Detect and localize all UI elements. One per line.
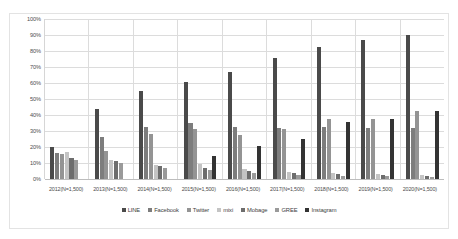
bar — [273, 58, 277, 179]
legend-label: Mobage — [247, 207, 267, 213]
chart-container: 0%10%20%30%40%50%60%70%80%90%100% 2012(N… — [9, 13, 449, 229]
y-axis-tick: 80% — [11, 48, 41, 54]
bar — [74, 160, 78, 179]
gridline — [45, 179, 444, 180]
bar — [60, 154, 64, 179]
y-axis-tick: 70% — [11, 64, 41, 70]
legend-item[interactable]: Instagram — [305, 207, 336, 213]
bar — [287, 172, 291, 179]
y-axis-tick: 100% — [11, 16, 41, 22]
chart-legend: LINEFacebookTwittermixiMobageGREEInstagr… — [10, 204, 448, 216]
legend-item[interactable]: GREE — [275, 207, 297, 213]
bar — [296, 175, 300, 179]
bar — [247, 171, 251, 179]
bar — [331, 173, 335, 179]
bar — [95, 109, 99, 179]
bar — [327, 119, 331, 179]
bar — [65, 152, 69, 179]
legend-swatch-icon — [305, 208, 309, 212]
bar — [242, 169, 246, 179]
bar — [55, 153, 59, 179]
plot-area — [44, 19, 444, 179]
bar-group — [223, 19, 267, 179]
legend-label: LINE — [128, 207, 141, 213]
bar — [435, 111, 439, 179]
bar-group — [45, 19, 89, 179]
bar — [198, 164, 202, 179]
bar — [430, 177, 434, 179]
bar — [381, 175, 385, 179]
y-axis-tick: 90% — [11, 32, 41, 38]
bar — [163, 168, 167, 179]
bar-groups — [45, 19, 444, 179]
legend-swatch-icon — [122, 208, 126, 212]
bar — [208, 170, 212, 179]
bar — [282, 129, 286, 179]
bar-group — [312, 19, 356, 179]
bar — [114, 161, 118, 179]
y-axis-tick: 20% — [11, 144, 41, 150]
bar-group — [401, 19, 444, 179]
plot-wrapper: 0%10%20%30%40%50%60%70%80%90%100% — [10, 14, 450, 184]
x-axis-label: 2014(N=1,500) — [132, 186, 176, 198]
bar — [188, 123, 192, 179]
bar — [301, 139, 305, 179]
bar — [149, 134, 153, 179]
legend-item[interactable]: Twitter — [187, 207, 209, 213]
legend-swatch-icon — [187, 208, 191, 212]
bar — [139, 91, 143, 179]
y-axis-tick: 50% — [11, 96, 41, 102]
x-axis-labels: 2012(N=1,500)2013(N=1,500)2014(N=1,500)2… — [44, 186, 442, 198]
bar — [69, 158, 73, 179]
bar-group — [89, 19, 133, 179]
bar — [228, 72, 232, 179]
bar — [385, 176, 389, 179]
legend-item[interactable]: Mobage — [241, 207, 267, 213]
legend-label: Instagram — [311, 207, 336, 213]
y-axis-tick: 40% — [11, 112, 41, 118]
bar — [366, 128, 370, 179]
legend-label: GREE — [281, 207, 297, 213]
bar — [376, 174, 380, 179]
legend-item[interactable]: mixi — [217, 207, 233, 213]
legend-item[interactable]: LINE — [122, 207, 141, 213]
bar — [317, 47, 321, 179]
bar — [277, 128, 281, 179]
bar — [203, 168, 207, 179]
bar — [371, 119, 375, 179]
legend-label: Facebook — [154, 207, 179, 213]
y-axis-tick: 0% — [11, 176, 41, 182]
bar — [406, 35, 410, 179]
legend-label: Twitter — [193, 207, 209, 213]
bar — [104, 151, 108, 179]
x-axis-label: 2020(N=1,500) — [398, 186, 442, 198]
bar-group — [134, 19, 178, 179]
legend-item[interactable]: Facebook — [148, 207, 179, 213]
y-axis-tick: 30% — [11, 128, 41, 134]
y-axis: 0%10%20%30%40%50%60%70%80%90%100% — [10, 14, 44, 184]
bar — [252, 173, 256, 179]
bar — [184, 82, 188, 179]
x-axis-label: 2016(N=1,500) — [221, 186, 265, 198]
bar — [119, 163, 123, 179]
bar — [100, 137, 104, 179]
bar — [390, 119, 394, 179]
bar-group — [178, 19, 222, 179]
legend-swatch-icon — [241, 208, 245, 212]
x-axis-label: 2012(N=1,500) — [44, 186, 88, 198]
legend-swatch-icon — [275, 208, 279, 212]
legend-label: mixi — [223, 207, 233, 213]
bar — [158, 166, 162, 179]
bar — [233, 127, 237, 179]
x-axis-label: 2015(N=1,500) — [177, 186, 221, 198]
y-axis-tick: 60% — [11, 80, 41, 86]
bar-group — [267, 19, 311, 179]
x-axis-label: 2013(N=1,500) — [88, 186, 132, 198]
bar — [341, 176, 345, 179]
bar — [346, 122, 350, 179]
bar-group — [356, 19, 400, 179]
legend-swatch-icon — [217, 208, 221, 212]
bar — [361, 40, 365, 179]
bar — [50, 147, 54, 179]
bar — [257, 146, 261, 179]
